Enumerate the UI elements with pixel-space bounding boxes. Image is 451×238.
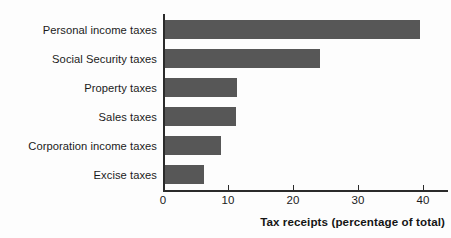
category-label-social-security-taxes: Social Security taxes: [0, 53, 157, 65]
bar-sales-taxes: [163, 107, 236, 126]
category-label-corporation-income-taxes: Corporation income taxes: [0, 140, 157, 152]
category-axis-labels: Personal income taxes Social Security ta…: [0, 0, 157, 200]
bar-personal-income-taxes: [163, 20, 420, 39]
x-axis-title: Tax receipts (percentage of total): [0, 215, 445, 228]
category-label-sales-taxes: Sales taxes: [0, 111, 157, 123]
bar-property-taxes: [163, 78, 237, 97]
plot-area: [163, 14, 451, 190]
x-tick-mark: [228, 185, 229, 191]
x-tick-label-10: 10: [213, 194, 243, 207]
x-tick-mark: [358, 185, 359, 191]
bar-corporation-income-taxes: [163, 136, 221, 155]
bar-social-security-taxes: [163, 49, 320, 68]
x-tick-label-40: 40: [408, 194, 438, 207]
bar-excise-taxes: [163, 165, 204, 184]
category-label-property-taxes: Property taxes: [0, 82, 157, 94]
x-tick-mark: [163, 185, 164, 191]
x-tick-mark: [423, 185, 424, 191]
y-axis-line: [163, 14, 165, 192]
category-label-personal-income-taxes: Personal income taxes: [0, 24, 157, 36]
category-label-excise-taxes: Excise taxes: [0, 169, 157, 181]
x-axis-line: [163, 190, 448, 192]
x-tick-label-20: 20: [278, 194, 308, 207]
x-tick-label-30: 30: [343, 194, 373, 207]
bar-chart: Personal income taxes Social Security ta…: [0, 0, 451, 238]
x-tick-mark: [293, 185, 294, 191]
x-tick-label-0: 0: [148, 194, 178, 207]
